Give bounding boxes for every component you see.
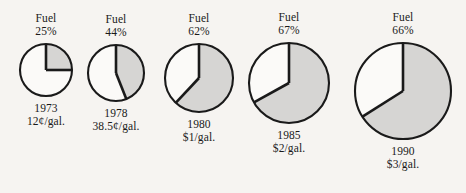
price-label: $2/gal. xyxy=(239,142,339,155)
pie-chart-1980 xyxy=(161,40,237,116)
percent-label: 67% xyxy=(239,24,339,37)
series-label: Fuel xyxy=(239,11,339,24)
year-label: 1990 xyxy=(353,145,453,158)
price-label: $1/gal. xyxy=(149,131,249,144)
pie-footer-1985: 1985$2/gal. xyxy=(239,129,339,155)
pie-chart-1985 xyxy=(245,39,333,127)
percent-label: 62% xyxy=(149,25,249,38)
pie-header-1985: Fuel67% xyxy=(239,11,339,37)
series-label: Fuel xyxy=(353,11,453,24)
series-label: Fuel xyxy=(149,12,249,25)
pie-chart-1990 xyxy=(351,39,455,143)
year-label: 1985 xyxy=(239,129,339,142)
pie-header-1980: Fuel62% xyxy=(149,12,249,38)
pie-footer-1990: 1990$3/gal. xyxy=(353,145,453,171)
pie-chart-1973 xyxy=(16,40,76,100)
fuel-cost-pie-small-multiples: Fuel25%197312¢/gal.Fuel44%197838.5¢/gal.… xyxy=(0,0,466,193)
pie-header-1990: Fuel66% xyxy=(353,11,453,37)
pie-footer-1980: 1980$1/gal. xyxy=(149,118,249,144)
percent-label: 66% xyxy=(353,24,453,37)
pie-chart-1978 xyxy=(84,41,148,105)
year-label: 1980 xyxy=(149,118,249,131)
price-label: $3/gal. xyxy=(353,158,453,171)
